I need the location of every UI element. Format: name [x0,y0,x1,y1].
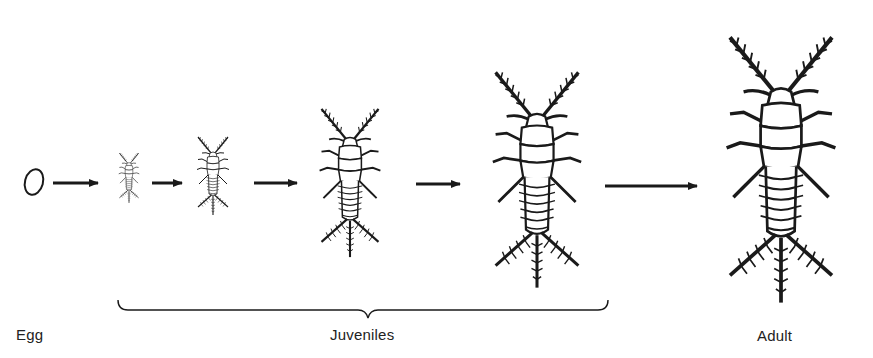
juvenile-3-insect-icon [320,109,381,257]
juvenile-4-insect-icon [493,72,581,287]
juvenile-1-insect-icon [119,153,139,203]
juveniles-brace [118,300,608,318]
life-cycle-diagram: Egg Juveniles Adult [0,0,873,358]
egg-label: Egg [16,326,43,343]
diagram-canvas [0,0,873,358]
juveniles-label: Juveniles [330,326,394,343]
egg-icon [22,167,46,197]
adult-insect-icon [727,37,836,302]
adult-label: Adult [757,327,792,344]
juvenile-2-insect-icon [197,137,229,215]
